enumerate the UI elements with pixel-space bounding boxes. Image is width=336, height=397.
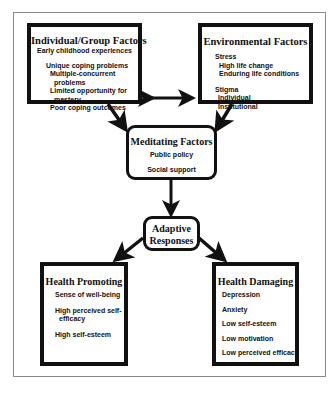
arrow-adaptive-to-damaging (199, 238, 222, 258)
list-item: High life change (202, 62, 309, 71)
box-title: Environmental Factors (202, 36, 309, 48)
list-item: Unique coping problems (31, 62, 138, 71)
environmental-factors-box: Environmental Factors Stress High life c… (198, 23, 313, 104)
list-item: Stress (202, 53, 309, 62)
list-item: efficacy (44, 315, 124, 324)
list-item: Social support (129, 166, 214, 175)
list-item: Low perceived efficacy (216, 349, 295, 358)
box-title: Responses (146, 235, 197, 247)
list-item: Institutional (202, 103, 309, 112)
list-item: Low self-esteem (216, 320, 295, 329)
list-item: Depression (216, 291, 295, 300)
box-title: Meditating Factors (129, 136, 214, 148)
list-item: Early childhood experiences (31, 47, 138, 56)
list-item: Sense of well-being (44, 291, 124, 300)
box-title: Health Damaging (216, 276, 295, 288)
list-item: Public policy (129, 151, 214, 160)
individual-group-factors-box: Individual/Group Factors Early childhood… (27, 23, 142, 104)
list-item: High perceived self- (44, 307, 124, 316)
list-item: High self-esteem (44, 331, 124, 340)
list-item: Limited opportunity for (31, 87, 138, 96)
health-promoting-box: Health Promoting Sense of well-being Hig… (40, 262, 128, 366)
meditating-factors-box: Meditating Factors Public policy Social … (126, 125, 217, 180)
list-item: Enduring life conditions (202, 70, 309, 79)
box-title: Adaptive (146, 223, 197, 235)
list-item: problems (31, 79, 138, 88)
box-title: Individual/Group Factors (31, 35, 138, 47)
list-item: Stigma (202, 86, 309, 95)
list-item: Low motivation (216, 335, 295, 344)
box-title: Health Promoting (44, 276, 124, 288)
adaptive-responses-box: Adaptive Responses (143, 216, 200, 251)
list-item: Poor coping outcomes (31, 104, 138, 113)
arrow-adaptive-to-promoting (118, 238, 143, 258)
list-item: mastery (31, 96, 138, 105)
list-item: Anxiety (216, 306, 295, 315)
list-item: Individual (202, 94, 309, 103)
list-item: Multiple-concurrent (31, 70, 138, 79)
health-damaging-box: Health Damaging Depression Anxiety Low s… (212, 262, 299, 366)
